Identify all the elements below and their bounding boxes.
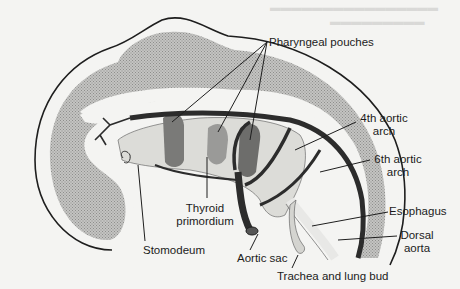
label-thyroid-line1: Thyroid — [165, 202, 245, 215]
label-trachea-lung-bud: Trachea and lung bud — [277, 270, 388, 283]
label-dorsal-aorta-line2: aorta — [392, 242, 442, 255]
pouch-2 — [207, 124, 228, 164]
label-4th-aortic-arch: 4th aortic arch — [354, 112, 414, 138]
label-6th-aortic-arch: 6th aortic arch — [368, 153, 428, 179]
label-stomodeum: Stomodeum — [143, 244, 205, 257]
label-4th-aortic-arch-line2: arch — [354, 125, 414, 138]
label-aortic-sac: Aortic sac — [237, 252, 288, 265]
label-6th-aortic-arch-line1: 6th aortic — [368, 153, 428, 166]
label-4th-aortic-arch-line1: 4th aortic — [354, 112, 414, 125]
label-thyroid-primordium: Thyroid primordium — [165, 202, 245, 228]
label-pharyngeal-pouches: Pharyngeal pouches — [269, 36, 374, 49]
aortic-sac — [246, 227, 258, 235]
label-thyroid-line2: primordium — [165, 215, 245, 228]
embryo-diagram: ▬▬▬▬▬▬▬▬▬▬▬▬▬▬▬▬ ▬▬▬▬▬▬▬▬▬ — [0, 0, 460, 289]
label-6th-aortic-arch-line2: arch — [368, 166, 428, 179]
label-dorsal-aorta: Dorsal aorta — [392, 229, 442, 255]
label-dorsal-aorta-line1: Dorsal — [392, 229, 442, 242]
label-esophagus: Esophagus — [389, 205, 447, 218]
embryo-illustration — [0, 0, 460, 289]
